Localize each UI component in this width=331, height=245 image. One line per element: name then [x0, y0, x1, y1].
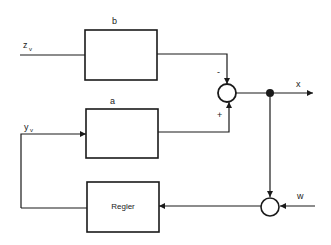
branch-point: [266, 89, 274, 97]
block-a-label: a: [110, 96, 115, 106]
yv-subscript: v: [30, 127, 33, 133]
minus-sign: -: [217, 67, 220, 77]
block-regler-label: Regler: [111, 202, 135, 211]
block-regler: Regler: [87, 182, 159, 232]
signal-w: w: [280, 191, 315, 206]
yv-label: y: [24, 122, 29, 132]
b-to-sum: -: [157, 54, 227, 84]
block-b: b: [85, 16, 157, 80]
signal-x: x: [236, 79, 313, 97]
plus-sign: +: [217, 110, 222, 120]
summing-junction-bottom: [261, 198, 279, 216]
a-to-sum: +: [158, 102, 229, 132]
x-label: x: [296, 79, 301, 89]
block-b-label: b: [112, 16, 117, 26]
summing-junction-top: [218, 84, 236, 102]
zv-subscript: v: [29, 46, 32, 52]
signal-yv: y v: [21, 122, 86, 208]
control-block-diagram: b a Regler z v - y v: [0, 0, 331, 245]
w-label: w: [296, 191, 304, 201]
block-a: a: [86, 96, 158, 158]
signal-zv: z v: [20, 40, 85, 55]
zv-label: z: [23, 40, 28, 50]
